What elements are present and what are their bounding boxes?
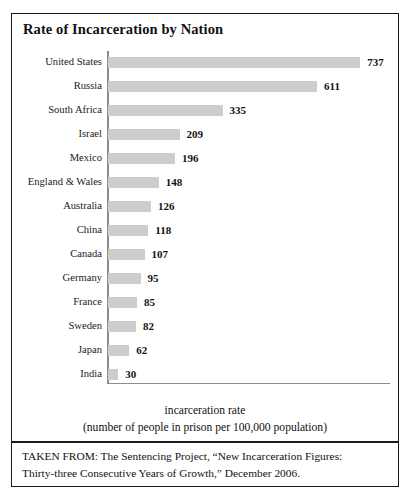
bar-row: United States737 — [12, 50, 398, 74]
bar — [108, 201, 151, 212]
bar — [108, 153, 175, 164]
bar-row: Japan62 — [12, 338, 398, 362]
bar-row: Germany95 — [12, 266, 398, 290]
bar-value-label: 148 — [166, 170, 183, 194]
bar — [108, 225, 148, 236]
page-title: Rate of Incarceration by Nation — [23, 21, 223, 38]
bar — [108, 273, 141, 284]
bar — [108, 57, 360, 68]
bar-category-label: Sweden — [12, 314, 102, 338]
bar-category-label: England & Wales — [12, 170, 102, 194]
bar-category-label: Mexico — [12, 146, 102, 170]
bar-row: China118 — [12, 218, 398, 242]
bar — [108, 345, 129, 356]
bar-category-label: Canada — [12, 242, 102, 266]
bar — [108, 177, 159, 188]
bar-row: India30 — [12, 362, 398, 386]
x-axis-caption: incarceration rate (number of people in … — [12, 403, 398, 436]
bar-row: Sweden82 — [12, 314, 398, 338]
x-axis-label: incarceration rate — [12, 403, 398, 419]
bar-value-label: 30 — [125, 362, 136, 386]
bar-chart-plot-area: United States737Russia611South Africa335… — [12, 50, 398, 402]
bar-value-label: 118 — [155, 218, 171, 242]
bar-category-label: Germany — [12, 266, 102, 290]
bar — [108, 369, 118, 380]
source-line-2: Thirty-three Consecutive Years of Growth… — [22, 465, 390, 482]
bar-value-label: 62 — [136, 338, 147, 362]
source-line-1: TAKEN FROM: The Sentencing Project, “New… — [22, 448, 390, 465]
bar-row: England & Wales148 — [12, 170, 398, 194]
figure-panel: Rate of Incarceration by Nation United S… — [11, 13, 399, 487]
bar — [108, 249, 145, 260]
bar-row: Australia126 — [12, 194, 398, 218]
bar-category-label: Russia — [12, 74, 102, 98]
bar-category-label: India — [12, 362, 102, 386]
bar — [108, 321, 136, 332]
bar-category-label: Australia — [12, 194, 102, 218]
bar-row: Mexico196 — [12, 146, 398, 170]
bar — [108, 81, 317, 92]
bar-value-label: 126 — [158, 194, 175, 218]
bar-category-label: United States — [12, 50, 102, 74]
bar-value-label: 82 — [143, 314, 154, 338]
bar-value-label: 85 — [144, 290, 155, 314]
bar-row: France85 — [12, 290, 398, 314]
x-axis-sublabel: (number of people in prison per 100,000 … — [12, 419, 398, 436]
bar-row: Israel209 — [12, 122, 398, 146]
bar-category-label: South Africa — [12, 98, 102, 122]
bar-value-label: 611 — [324, 74, 340, 98]
bar-category-label: China — [12, 218, 102, 242]
bar-value-label: 737 — [367, 50, 384, 74]
bar-value-label: 335 — [230, 98, 247, 122]
bar-category-label: Japan — [12, 338, 102, 362]
bar-value-label: 107 — [152, 242, 169, 266]
bar — [108, 129, 180, 140]
bar-row: South Africa335 — [12, 98, 398, 122]
bar — [108, 297, 137, 308]
bar-category-label: Israel — [12, 122, 102, 146]
title-bar: Rate of Incarceration by Nation — [12, 14, 398, 50]
bar-value-label: 95 — [148, 266, 159, 290]
source-note: TAKEN FROM: The Sentencing Project, “New… — [22, 448, 390, 482]
bar-row: Russia611 — [12, 74, 398, 98]
bar-category-label: France — [12, 290, 102, 314]
source-divider — [12, 441, 398, 443]
bar-value-label: 209 — [187, 122, 204, 146]
bar — [108, 105, 223, 116]
bar-row: Canada107 — [12, 242, 398, 266]
bar-value-label: 196 — [182, 146, 199, 170]
